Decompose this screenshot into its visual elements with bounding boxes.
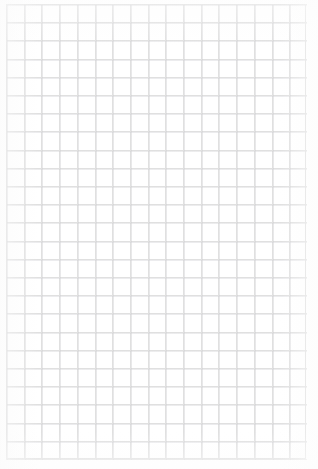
grid-paper-ruling: [6, 4, 307, 460]
page-root: [0, 0, 318, 469]
